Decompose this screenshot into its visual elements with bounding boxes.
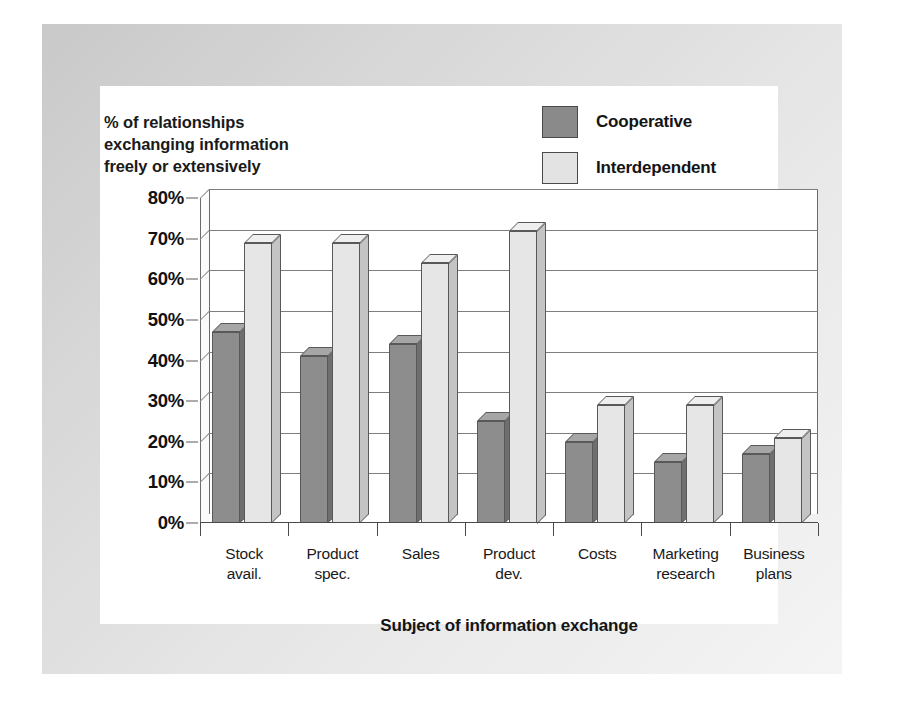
bar-interdependent [244,243,272,523]
x-axis-category-label: Productspec. [288,544,376,584]
category-label-line: avail. [200,564,288,584]
bar-side-face [272,234,281,523]
y-axis-label: % of relationships exchanging informatio… [104,112,434,177]
bar-front-face [509,231,537,524]
bar-interdependent [597,405,625,523]
y-axis-tick-mark [186,482,198,483]
category-label-line: Costs [553,544,641,564]
y-axis-tick-label: 60% [148,268,184,290]
bar-interdependent [421,263,449,523]
bar-front-face [774,438,802,523]
bar-front-face [244,243,272,523]
category-label-line: Product [288,544,376,564]
y-axis-tick-label: 80% [148,187,184,209]
y-axis-tick-mark [186,360,198,361]
y-axis-label-line-3: freely or extensively [104,156,434,178]
y-axis-tick-label: 50% [148,309,184,331]
legend-item-interdependent: Interdependent [542,152,716,184]
bar-interdependent [509,231,537,524]
category-label-line: Marketing [641,544,729,564]
y-axis-tick-mark [186,441,198,442]
chart-legend: Cooperative Interdependent [542,106,716,198]
y-axis-ticks: 0%10%20%30%40%50%60%70%80% [96,198,200,523]
bar-side-face [625,396,634,523]
bar-interdependent [686,405,714,523]
x-axis-baseline [200,522,818,523]
y-axis-tick-mark [186,401,198,402]
y-axis-tick-mark [186,238,198,239]
y-axis-label-line-2: exchanging information [104,134,434,156]
bar-front-face [421,263,449,523]
plot-area [200,198,818,523]
category-label-line: dev. [465,564,553,584]
bar-front-face [300,356,328,523]
bar-side-face [449,254,458,523]
x-axis-tick-mark [818,523,819,536]
bar-side-face [714,396,723,523]
x-axis-tick-mark [377,523,378,536]
x-axis-title: Subject of information exchange [200,616,818,636]
x-axis-category-labels: Stockavail.Productspec.SalesProductdev.C… [200,544,818,604]
gridline [209,189,818,190]
plot-area-wrapper: 0%10%20%30%40%50%60%70%80% Stockavail.Pr… [96,198,818,646]
bar-side-face [537,222,546,524]
category-label-line: plans [730,564,818,584]
y-axis-tick-mark [186,279,198,280]
y-axis-tick-label: 10% [148,471,184,493]
bar-series-layer [200,198,818,523]
x-axis-tick-mark [730,523,731,536]
bar-cooperative [300,356,328,523]
legend-label-cooperative: Cooperative [596,112,692,132]
bar-cooperative [212,332,240,523]
x-axis-category-label: Productdev. [465,544,553,584]
category-label-line: Stock [200,544,288,564]
y-axis-tick-label: 20% [148,431,184,453]
legend-label-interdependent: Interdependent [596,158,716,178]
x-axis-tick-mark [553,523,554,536]
light-gray-swatch-icon [542,152,578,184]
category-label-line: research [641,564,729,584]
bar-front-face [477,421,505,523]
bar-front-face [742,454,770,523]
bar-side-face [360,234,369,523]
y-axis-tick-label: 40% [148,350,184,372]
bar-cooperative [742,454,770,523]
bar-front-face [686,405,714,523]
x-axis-tick-mark [465,523,466,536]
y-axis-tick-label: 0% [158,512,184,534]
x-axis-category-label: Sales [377,544,465,564]
bar-cooperative [477,421,505,523]
bar-cooperative [389,344,417,523]
y-axis-tick-label: 70% [148,228,184,250]
x-axis-category-label: Marketingresearch [641,544,729,584]
y-axis-tick-mark [186,198,198,199]
bar-interdependent [332,243,360,523]
bar-cooperative [565,442,593,523]
x-axis-category-label: Stockavail. [200,544,288,584]
x-axis-category-label: Businessplans [730,544,818,584]
x-axis-tick-mark [641,523,642,536]
x-axis-tick-mark [200,523,201,536]
y-axis-tick-mark [186,319,198,320]
category-label-line: Business [730,544,818,564]
x-axis-tick-mark [288,523,289,536]
legend-item-cooperative: Cooperative [542,106,716,138]
bar-front-face [565,442,593,523]
chart-page: % of relationships exchanging informatio… [0,0,905,710]
y-axis-tick-label: 30% [148,390,184,412]
bar-front-face [332,243,360,523]
y-axis-label-line-1: % of relationships [104,112,434,134]
bar-chart: % of relationships exchanging informatio… [96,86,818,646]
bar-front-face [389,344,417,523]
category-label-line: spec. [288,564,376,584]
bar-front-face [597,405,625,523]
bar-interdependent [774,438,802,523]
bar-cooperative [654,462,682,523]
category-label-line: Sales [377,544,465,564]
y-axis-tick-mark [186,523,198,524]
category-label-line: Product [465,544,553,564]
bar-front-face [212,332,240,523]
dark-gray-swatch-icon [542,106,578,138]
bar-side-face [802,429,811,523]
x-axis-category-label: Costs [553,544,641,564]
